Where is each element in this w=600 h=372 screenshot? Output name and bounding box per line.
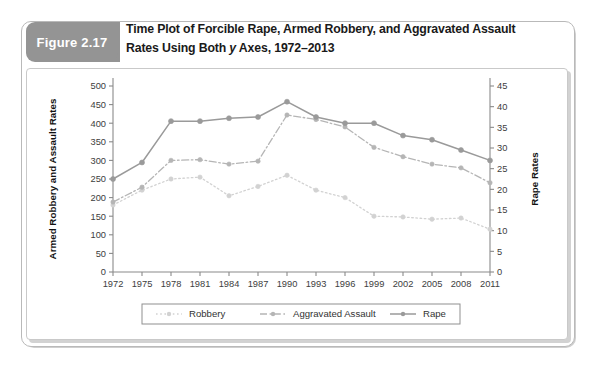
data-point bbox=[227, 194, 231, 198]
data-point bbox=[430, 137, 435, 142]
x-axis-tick-label: 1993 bbox=[306, 279, 327, 289]
data-point bbox=[401, 133, 406, 138]
figure-title: Time Plot of Forcible Rape, Armed Robber… bbox=[126, 20, 538, 58]
x-axis-tick-label: 1972 bbox=[103, 279, 124, 289]
data-point bbox=[488, 181, 492, 185]
right-axis-tick-label: 25 bbox=[497, 164, 507, 174]
data-point bbox=[343, 121, 348, 126]
figure-badge: Figure 2.17 bbox=[26, 22, 118, 62]
data-point bbox=[314, 188, 318, 192]
data-point bbox=[111, 177, 116, 182]
left-axis-tick-label: 200 bbox=[90, 193, 106, 203]
right-axis-tick-label: 35 bbox=[497, 123, 507, 133]
left-axis-tick-label: 250 bbox=[90, 174, 106, 184]
x-axis-tick-label: 2005 bbox=[422, 279, 443, 289]
data-point bbox=[256, 159, 260, 163]
right-axis-tick-label: 40 bbox=[497, 102, 507, 112]
data-point bbox=[285, 173, 289, 177]
x-axis-tick-label: 2002 bbox=[393, 279, 414, 289]
right-axis-tick-label: 30 bbox=[497, 143, 507, 153]
data-point bbox=[198, 157, 202, 161]
figure-title-line-1: Time Plot of Forcible Rape, Armed Robber… bbox=[126, 20, 538, 39]
data-point bbox=[372, 145, 376, 149]
axes: 0501001502002503003504004505000510152025… bbox=[90, 78, 507, 289]
data-point bbox=[227, 116, 232, 121]
x-axis-tick-label: 2008 bbox=[451, 279, 472, 289]
x-axis-tick-label: 1990 bbox=[277, 279, 298, 289]
data-point bbox=[169, 177, 173, 181]
legend-label: Rape bbox=[423, 308, 446, 319]
data-point bbox=[285, 99, 290, 104]
data-point bbox=[430, 162, 434, 166]
x-axis-tick-label: 1981 bbox=[190, 279, 211, 289]
data-point bbox=[488, 158, 493, 163]
data-point bbox=[198, 119, 203, 124]
x-axis-tick-label: 1978 bbox=[161, 279, 182, 289]
data-point bbox=[401, 154, 405, 158]
data-point bbox=[372, 214, 376, 218]
series-robbery bbox=[111, 173, 492, 231]
right-axis-tick-label: 15 bbox=[497, 205, 507, 215]
figure-title-line-2-post: Axes, 1972–2013 bbox=[236, 41, 334, 55]
right-axis-tick-label: 5 bbox=[497, 247, 502, 257]
left-axis-tick-label: 150 bbox=[90, 212, 106, 222]
left-axis-tick-label: 400 bbox=[90, 119, 106, 129]
data-point bbox=[227, 162, 231, 166]
left-axis-tick-label: 500 bbox=[90, 81, 106, 91]
chart-legend: RobberyAggravated AssaultRape bbox=[142, 304, 460, 324]
data-point bbox=[256, 184, 260, 188]
data-point bbox=[111, 200, 115, 204]
data-point bbox=[140, 160, 145, 165]
data-point bbox=[459, 148, 464, 153]
left-axis-tick-label: 450 bbox=[90, 100, 106, 110]
legend-label: Aggravated Assault bbox=[293, 308, 376, 319]
right-axis-tick-label: 10 bbox=[497, 226, 507, 236]
data-point bbox=[459, 216, 463, 220]
legend-marker bbox=[271, 312, 275, 316]
data-point bbox=[459, 166, 463, 170]
series-rape bbox=[111, 99, 493, 181]
x-axis-tick-label: 1975 bbox=[132, 279, 153, 289]
left-axis-tick-label: 350 bbox=[90, 137, 106, 147]
data-point bbox=[430, 217, 434, 221]
left-axis-tick-label: 50 bbox=[96, 249, 106, 259]
left-axis-tick-label: 0 bbox=[101, 267, 106, 277]
left-axis-title: Armed Robbery and Assault Rates bbox=[47, 98, 58, 259]
x-axis-tick-label: 1984 bbox=[219, 279, 240, 289]
data-point bbox=[140, 185, 144, 189]
data-point bbox=[256, 115, 261, 120]
left-axis-tick-label: 100 bbox=[90, 230, 106, 240]
data-point bbox=[198, 175, 202, 179]
right-axis-tick-label: 45 bbox=[497, 81, 507, 91]
data-point bbox=[285, 113, 289, 117]
x-axis-tick-label: 1996 bbox=[335, 279, 356, 289]
right-axis-title: Rape Rates bbox=[529, 152, 540, 206]
figure-screenshot: Figure 2.17 Time Plot of Forcible Rape, … bbox=[0, 0, 600, 372]
left-axis-tick-label: 300 bbox=[90, 156, 106, 166]
x-axis-tick-label: 1999 bbox=[364, 279, 385, 289]
figure-title-line-2-pre: Rates Using Both bbox=[126, 41, 229, 55]
x-axis-tick-label: 1987 bbox=[248, 279, 269, 289]
legend-marker bbox=[401, 312, 405, 316]
data-point bbox=[169, 119, 174, 124]
data-point bbox=[372, 121, 377, 126]
data-point bbox=[314, 115, 319, 120]
data-point bbox=[401, 215, 405, 219]
legend-marker bbox=[167, 312, 171, 316]
figure-title-line-2: Rates Using Both y Axes, 1972–2013 bbox=[126, 39, 538, 58]
data-point bbox=[169, 158, 173, 162]
legend-label: Robbery bbox=[189, 308, 225, 319]
right-axis-tick-label: 20 bbox=[497, 185, 507, 195]
chart-area: 0501001502002503003504004505000510152025… bbox=[26, 68, 568, 340]
data-point bbox=[488, 227, 492, 231]
data-point bbox=[343, 195, 347, 199]
chart-svg: 0501001502002503003504004505000510152025… bbox=[26, 68, 568, 340]
right-axis-tick-label: 0 bbox=[497, 267, 502, 277]
x-axis-tick-label: 2011 bbox=[480, 279, 500, 289]
